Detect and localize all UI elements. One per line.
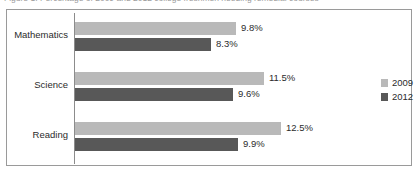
bar-value-mathematics-2009: 9.8% <box>241 21 263 34</box>
bar-value-science-2012: 9.6% <box>238 87 260 100</box>
category-label-reading: Reading <box>0 129 68 140</box>
legend-entry-2012[interactable]: 2012 <box>375 90 418 104</box>
figure-caption: Figure 1. Percentage of 2009 and 2012 co… <box>4 0 319 3</box>
bar-science-2012[interactable] <box>75 88 233 101</box>
category-label-mathematics: Mathematics <box>0 29 68 40</box>
category-group-mathematics: Mathematics 9.8% 8.3% <box>74 13 410 63</box>
bar-value-mathematics-2012: 8.3% <box>216 37 238 50</box>
bar-value-science-2009: 11.5% <box>269 71 295 84</box>
legend-swatch-2012-icon <box>381 93 388 101</box>
chart-frame: Mathematics 9.8% 8.3% Science 11.5% <box>6 9 412 166</box>
bar-mathematics-2012[interactable] <box>75 38 211 51</box>
category-label-science: Science <box>0 79 68 90</box>
figure-caption-strip: Figure 1. Percentage of 2009 and 2012 co… <box>0 0 418 5</box>
bar-science-2009[interactable] <box>75 72 264 85</box>
legend-entry-2009[interactable]: 2009 <box>375 76 418 90</box>
chart-figure: Figure 1. Percentage of 2009 and 2012 co… <box>0 0 418 173</box>
legend-swatch-2009-icon <box>381 79 388 87</box>
bar-value-reading-2009: 12.5% <box>286 121 313 134</box>
legend-label-2012: 2012 <box>392 90 413 104</box>
bar-reading-2009[interactable] <box>75 122 281 135</box>
plot-area: Mathematics 9.8% 8.3% Science 11.5% <box>74 13 410 164</box>
bar-value-reading-2012: 9.9% <box>243 137 265 150</box>
chart-legend: 2009 2012 <box>375 76 418 104</box>
category-group-science: Science 11.5% 9.6% <box>74 63 410 113</box>
legend-label-2009: 2009 <box>392 76 413 90</box>
bar-mathematics-2009[interactable] <box>75 22 236 35</box>
category-group-reading: Reading 12.5% 9.9% <box>74 113 410 163</box>
bar-reading-2012[interactable] <box>75 138 238 151</box>
